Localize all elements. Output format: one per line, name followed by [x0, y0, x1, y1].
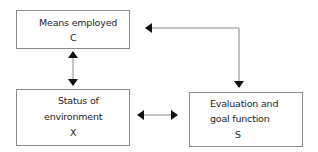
node-symbol: C: [70, 32, 76, 43]
arrow-x-s: [137, 110, 178, 120]
node-means-employed: Means employed C: [16, 10, 130, 49]
node-label: environment: [44, 111, 102, 122]
arrow-c-x: [68, 51, 78, 86]
arrow-s-c: [145, 23, 244, 88]
node-status-of-environment: Status of environment X: [16, 89, 130, 146]
node-symbol: S: [235, 129, 241, 140]
node-label: Evaluation and: [210, 98, 278, 109]
node-label: Means employed: [39, 17, 117, 28]
node-label: Status of: [58, 95, 99, 106]
node-symbol: X: [70, 127, 76, 138]
node-label: goal function: [210, 113, 270, 124]
node-evaluation-goal-function: Evaluation and goal function S: [189, 92, 303, 147]
